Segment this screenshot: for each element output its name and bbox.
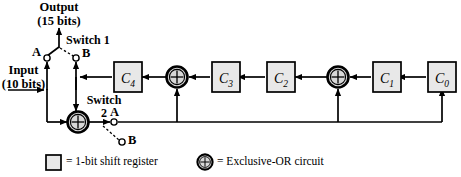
switch1-dashed-b: [60, 48, 75, 57]
legend-xor-symbol: [197, 154, 212, 169]
switch2-contact-b-node[interactable]: [119, 139, 125, 145]
switch1-contact-b-label: B: [82, 47, 90, 61]
switch1-label: Switch 1: [66, 34, 110, 47]
switch2-contact-b-label: B: [128, 134, 136, 148]
register-c1: C1: [373, 62, 401, 92]
switch1-contact-b-node[interactable]: [73, 55, 79, 61]
output-label: Output (15 bits): [22, 1, 96, 28]
xor-gate-c4-c3: [167, 67, 188, 88]
register-c0: C0: [428, 62, 456, 92]
legend-register-symbol: [46, 155, 61, 170]
xor-gate-c2-c1: [328, 67, 349, 88]
switch2-contact-a-label: A: [110, 106, 119, 120]
input-label: Input (10 bits): [0, 64, 47, 91]
legend-register-text: = 1-bit shift register: [66, 155, 158, 167]
switch1-contact-a-node[interactable]: [44, 55, 50, 61]
register-c2: C2: [267, 62, 295, 92]
legend-xor-text: = Exclusive-OR circuit: [217, 155, 324, 167]
figure-canvas: C4 C3 C2 C1 C0: [0, 0, 461, 177]
register-c4: C4: [114, 62, 142, 92]
switch2-dashed-b: [103, 126, 119, 140]
switch1-arm: [47, 47, 59, 56]
register-c3: C3: [212, 62, 240, 92]
switch1-contact-a-label: A: [32, 46, 41, 60]
